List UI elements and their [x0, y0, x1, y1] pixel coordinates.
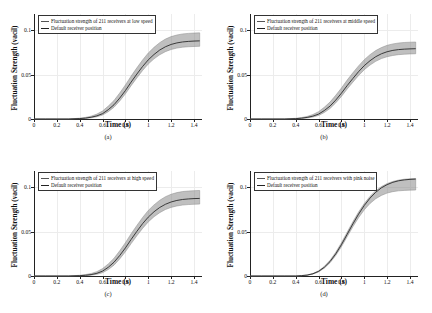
legend-label-default-a: Default receiver position	[51, 25, 102, 32]
legend-row-default-d: Default receiver position	[257, 182, 374, 189]
caption-d: (d)	[216, 290, 432, 297]
default-receiver-curve	[34, 41, 200, 119]
plot-area-b: 00.20.40.60.811.21.400.050.1 Fluctuation…	[250, 14, 418, 120]
caption-a: (a)	[0, 133, 216, 140]
legend-row-band-b: Fluctuation strength of 211 receivers at…	[257, 18, 375, 25]
plot-area-a: 00.20.40.60.811.21.400.050.1 Fluctuation…	[34, 14, 202, 120]
legend-line-band-icon	[41, 21, 49, 22]
legend-label-band-b: Fluctuation strength of 211 receivers at…	[267, 18, 375, 25]
y-tick-label: 0	[244, 273, 247, 279]
legend-label-band-a: Fluctuation strength of 211 receivers at…	[51, 18, 153, 25]
default-receiver-curve	[34, 198, 200, 276]
legend-row-default-a: Default receiver position	[41, 25, 153, 32]
y-tick-label: 0.05	[237, 72, 247, 78]
y-tick-label: 0.1	[24, 184, 31, 190]
legend-line-default-icon	[257, 185, 265, 186]
legend-row-default-c: Default receiver position	[41, 182, 154, 189]
y-tick-label: 0	[28, 116, 31, 122]
subplot-b: Fluctuation Strength (vacil) 00.20.40.60…	[216, 0, 432, 156]
y-axis-label-d: Fluctuation Strength (vacil)	[225, 171, 237, 279]
y-tick-label: 0	[244, 116, 247, 122]
legend-label-band-d: Fluctuation strength of 211 receivers wi…	[267, 175, 374, 182]
confidence-band	[250, 178, 416, 276]
legend-row-band-a: Fluctuation strength of 211 receivers at…	[41, 18, 153, 25]
y-axis-label-a: Fluctuation Strength (vacil)	[9, 14, 21, 122]
y-tick-label: 0.1	[240, 27, 247, 33]
default-receiver-curve	[250, 179, 416, 276]
figure-container: Fluctuation Strength (vacil) 00.20.40.60…	[0, 0, 432, 313]
legend-line-band-icon	[41, 178, 49, 179]
legend-line-band-icon	[257, 21, 265, 22]
y-tick-label: 0.05	[237, 229, 247, 235]
legend-label-default-b: Default receiver position	[267, 25, 318, 32]
legend-line-default-icon	[257, 28, 265, 29]
confidence-band	[34, 190, 200, 276]
y-tick-label: 0.05	[21, 72, 31, 78]
y-tick-label: 0.1	[24, 27, 31, 33]
legend-label-default-d: Default receiver position	[267, 182, 318, 189]
legend-row-band-d: Fluctuation strength of 211 receivers wi…	[257, 175, 374, 182]
legend-line-default-icon	[41, 185, 49, 186]
legend-line-default-icon	[41, 28, 49, 29]
subplot-a: Fluctuation Strength (vacil) 00.20.40.60…	[0, 0, 216, 156]
legend-b: Fluctuation strength of 211 receivers at…	[254, 15, 378, 34]
y-tick-label: 0.05	[21, 229, 31, 235]
y-axis-label-b: Fluctuation Strength (vacil)	[225, 14, 237, 122]
y-tick-label: 0	[28, 273, 31, 279]
legend-d: Fluctuation strength of 211 receivers wi…	[254, 172, 377, 191]
legend-row-default-b: Default receiver position	[257, 25, 375, 32]
subplot-c: Fluctuation Strength (vacil) 00.20.40.60…	[0, 157, 216, 313]
x-axis-label-c: Time (s)	[34, 277, 202, 286]
default-receiver-curve	[250, 49, 416, 119]
plot-area-c: 00.20.40.60.811.21.400.050.1 Fluctuation…	[34, 171, 202, 277]
plot-area-d: 00.20.40.60.811.21.400.050.1 Fluctuation…	[250, 171, 418, 277]
y-tick-label: 0.1	[240, 184, 247, 190]
legend-label-band-c: Fluctuation strength of 211 receivers at…	[51, 175, 154, 182]
x-axis-label-d: Time (s)	[250, 277, 418, 286]
confidence-band	[250, 42, 416, 119]
caption-c: (c)	[0, 290, 216, 297]
legend-a: Fluctuation strength of 211 receivers at…	[38, 15, 156, 34]
subplot-d: Fluctuation Strength (vacil) 00.20.40.60…	[216, 157, 432, 313]
legend-c: Fluctuation strength of 211 receivers at…	[38, 172, 157, 191]
x-axis-label-b: Time (s)	[250, 120, 418, 129]
legend-line-band-icon	[257, 178, 265, 179]
confidence-band	[34, 33, 200, 119]
x-axis-label-a: Time (s)	[34, 120, 202, 129]
legend-label-default-c: Default receiver position	[51, 182, 102, 189]
y-axis-label-c: Fluctuation Strength (vacil)	[9, 171, 21, 279]
legend-row-band-c: Fluctuation strength of 211 receivers at…	[41, 175, 154, 182]
caption-b: (b)	[216, 133, 432, 140]
